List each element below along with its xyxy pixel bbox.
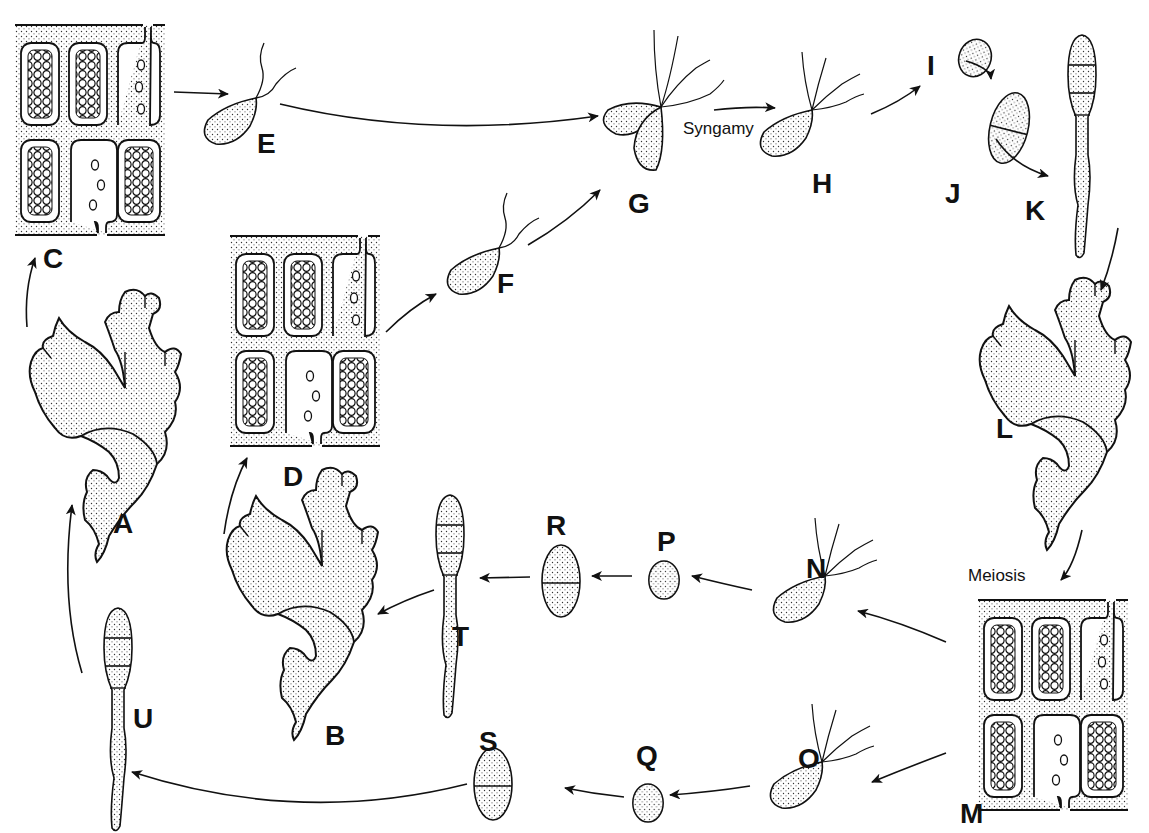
stage-k-young-sporophyte: [1068, 35, 1096, 258]
stage-b-thallus: [227, 468, 378, 740]
diagram-canvas: [0, 0, 1149, 833]
stage-t-young-gametophyte: [436, 495, 464, 718]
arrow-u-to-a: [68, 505, 82, 673]
stage-q-spore: [633, 784, 663, 822]
arrow-d-to-f: [386, 294, 436, 332]
stage-label-p: P: [657, 528, 676, 556]
ulva-life-cycle-diagram: A B C D E F G H I J K L M N O P Q R S T …: [0, 0, 1149, 833]
stage-label-b: B: [325, 722, 345, 750]
arrow-e-to-g: [280, 104, 598, 126]
stage-m-sporangia-tissue: [978, 600, 1128, 810]
arrow-n-to-p: [692, 576, 752, 590]
stage-c-gametangia-tissue: [15, 25, 165, 235]
stage-label-t: T: [452, 623, 469, 651]
arrow-m-to-n: [858, 611, 946, 642]
arrow-s-to-u: [132, 772, 467, 802]
arrow-g-to-h: [714, 107, 775, 110]
stage-label-g: G: [628, 190, 650, 218]
stage-label-h: H: [812, 170, 832, 198]
stage-a-thallus: [30, 290, 181, 562]
arrow-t-to-b: [378, 590, 434, 614]
stage-label-c: C: [43, 245, 63, 273]
stage-label-o: O: [798, 745, 820, 773]
arrow-c-to-e: [174, 92, 228, 94]
stage-label-d: D: [283, 463, 303, 491]
meiosis-annotation: Meiosis: [968, 567, 1026, 584]
stage-label-a: A: [113, 510, 133, 538]
arrow-m-to-o: [872, 753, 946, 782]
stage-label-n: N: [806, 555, 826, 583]
stage-label-f: F: [497, 270, 514, 298]
stage-label-l: L: [996, 415, 1013, 443]
stage-label-s: S: [479, 728, 498, 756]
arrow-a-to-c: [26, 258, 35, 327]
arrow-q-to-s: [565, 788, 624, 797]
stage-label-k: K: [1025, 197, 1045, 225]
stage-p-spore: [649, 561, 679, 599]
arrow-r-to-t: [480, 577, 530, 578]
stage-label-m: M: [960, 800, 983, 828]
stage-f-gamete: [447, 193, 539, 294]
stage-label-r: R: [546, 512, 566, 540]
arrow-k-to-l: [1101, 228, 1118, 290]
syngamy-annotation: Syngamy: [683, 120, 754, 137]
stage-label-e: E: [257, 130, 276, 158]
arrow-o-to-q: [670, 786, 750, 795]
stage-s-two-celled: [474, 748, 512, 820]
stage-label-q: Q: [636, 742, 658, 770]
stage-o-zoospore: [770, 704, 874, 808]
stage-h-zygote: [760, 52, 864, 156]
arrow-l-to-m: [1061, 530, 1082, 580]
stage-u-young-gametophyte: [104, 608, 132, 831]
stage-label-u: U: [133, 705, 153, 733]
stage-label-j: J: [945, 180, 961, 208]
cycle-arrows: [26, 61, 1118, 802]
stage-d-gametangia-tissue: [230, 236, 380, 446]
stage-label-i: I: [927, 52, 935, 80]
stage-g-fusing-gametes: [604, 30, 725, 170]
stage-j-two-celled: [982, 88, 1036, 167]
stage-r-two-celled: [542, 545, 580, 617]
arrow-h-to-i: [871, 86, 920, 114]
